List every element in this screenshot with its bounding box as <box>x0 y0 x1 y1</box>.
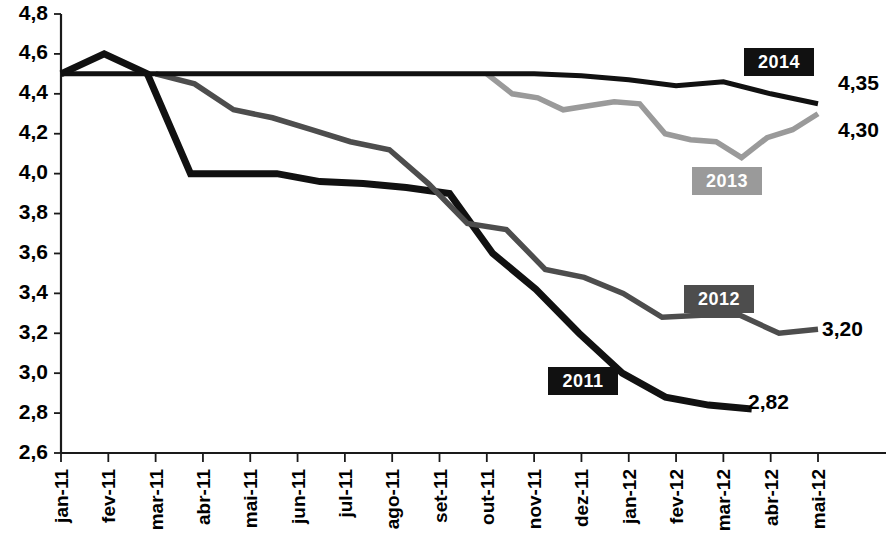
series-badge-2012: 2012 <box>684 285 754 313</box>
series-badge-label-2014: 2014 <box>758 52 800 72</box>
y-tick-label: 4,0 <box>19 160 48 183</box>
y-tick-label: 4,2 <box>19 120 48 143</box>
series-badge-label-2012: 2012 <box>698 289 740 309</box>
series-badge-label-2011: 2011 <box>562 371 603 391</box>
x-tick-label: ago-11 <box>382 469 403 530</box>
y-tick-label: 3,2 <box>19 320 48 343</box>
y-tick-label: 2,6 <box>19 440 48 463</box>
series-badge-2013: 2013 <box>692 167 762 195</box>
series-badge-2014: 2014 <box>744 48 814 76</box>
y-tick-label: 4,6 <box>19 40 48 63</box>
x-tick-label: mar-12 <box>713 469 734 531</box>
x-tick-label: dez-11 <box>571 469 592 528</box>
x-tick-label: jun-11 <box>288 469 309 525</box>
x-tick-label: abr-11 <box>193 469 214 525</box>
x-axis: jan-11fev-11mar-11abr-11mai-11jun-11jul-… <box>51 453 886 531</box>
end-value-2012: 3,20 <box>822 317 863 340</box>
x-tick-label: set-11 <box>430 469 451 523</box>
x-tick-label: nov-11 <box>524 469 545 530</box>
series-line-2013 <box>487 74 818 158</box>
x-tick-label: fev-11 <box>98 469 119 523</box>
x-tick-label: mai-12 <box>808 469 829 529</box>
y-tick-label: 4,4 <box>19 80 49 103</box>
x-tick-label: mar-11 <box>146 469 167 531</box>
x-tick-label: jan-11 <box>51 469 72 524</box>
x-tick-label: jul-11 <box>335 469 356 519</box>
y-tick-label: 4,8 <box>19 1 49 24</box>
series-badge-label-2013: 2013 <box>706 171 748 191</box>
series-line-2011 <box>61 54 752 409</box>
data-series-group <box>61 54 818 409</box>
end-value-2013: 4,30 <box>838 118 879 141</box>
x-tick-label: mai-11 <box>240 469 261 529</box>
y-tick-label: 2,8 <box>19 400 49 423</box>
x-tick-label: fev-12 <box>666 469 687 524</box>
x-tick-label: out-11 <box>477 469 498 525</box>
end-value-2011: 2,82 <box>748 390 789 413</box>
end-value-2014: 4,35 <box>838 71 879 94</box>
y-tick-label: 3,0 <box>19 360 48 383</box>
line-chart: 4,84,64,44,24,03,83,63,43,23,02,82,6 jan… <box>0 0 891 544</box>
y-tick-label: 3,4 <box>19 280 49 303</box>
x-tick-label: jan-12 <box>619 469 640 525</box>
x-tick-label: abr-12 <box>761 469 782 526</box>
end-value-labels: 2,823,204,304,35 <box>748 71 879 413</box>
chart-canvas: 4,84,64,44,24,03,83,63,43,23,02,82,6 jan… <box>0 0 891 544</box>
y-tick-label: 3,6 <box>19 240 48 263</box>
series-badge-2011: 2011 <box>548 367 618 395</box>
y-axis: 4,84,64,44,24,03,83,63,43,23,02,82,6 <box>19 1 61 463</box>
y-tick-label: 3,8 <box>19 200 49 223</box>
